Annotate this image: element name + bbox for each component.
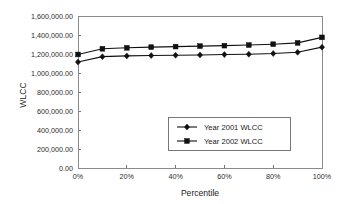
y-tick-label: 600,000.00 bbox=[37, 107, 73, 116]
data-series-group bbox=[75, 35, 324, 65]
legend-label: Year 2001 WLCC bbox=[204, 123, 263, 132]
data-point-marker bbox=[222, 52, 227, 58]
x-tick-label: 80% bbox=[266, 172, 281, 181]
data-point-marker bbox=[246, 43, 251, 48]
legend-label: Year 2002 WLCC bbox=[204, 137, 263, 146]
x-tick-label: 0% bbox=[73, 172, 84, 181]
data-point-marker bbox=[76, 52, 81, 57]
y-tick-label: 400,000.00 bbox=[37, 126, 73, 135]
data-point-marker bbox=[149, 53, 154, 59]
y-tick-label: 1,600,000.00 bbox=[31, 12, 73, 21]
x-axis-title: Percentile bbox=[181, 188, 219, 198]
data-point-marker bbox=[75, 59, 80, 65]
x-tick-label: 60% bbox=[217, 172, 232, 181]
data-point-marker bbox=[100, 54, 105, 60]
data-point-marker bbox=[173, 52, 178, 58]
data-point-marker bbox=[271, 42, 276, 47]
y-tick-label: 200,000.00 bbox=[37, 145, 73, 154]
y-tick-label: 1,200,000.00 bbox=[31, 50, 73, 59]
wlcc-percentile-line-chart: 0.00200,000.00400,000.00600,000.00800,00… bbox=[0, 0, 347, 204]
data-point-marker bbox=[320, 35, 325, 40]
x-tick-label: 20% bbox=[120, 172, 135, 181]
chart-figure: 0.00200,000.00400,000.00600,000.00800,00… bbox=[0, 0, 347, 204]
data-point-marker bbox=[100, 46, 105, 51]
y-tick-label: 0.00 bbox=[59, 164, 73, 173]
data-point-marker bbox=[124, 45, 129, 50]
data-point-marker bbox=[222, 43, 227, 48]
data-point-marker bbox=[185, 139, 190, 144]
data-point-marker bbox=[271, 51, 276, 57]
data-point-marker bbox=[173, 44, 178, 49]
y-tick-label: 800,000.00 bbox=[37, 88, 73, 97]
data-point-marker bbox=[295, 49, 300, 55]
data-point-marker bbox=[124, 53, 129, 59]
x-axis-tick-labels: 0%20%40%60%80%100% bbox=[73, 172, 332, 181]
data-point-marker bbox=[198, 44, 203, 49]
data-point-marker bbox=[149, 45, 154, 50]
data-point-marker bbox=[246, 51, 251, 57]
y-axis-tick-labels: 0.00200,000.00400,000.00600,000.00800,00… bbox=[31, 12, 73, 173]
x-tick-label: 100% bbox=[313, 172, 332, 181]
data-point-marker bbox=[295, 40, 300, 45]
y-tick-label: 1,400,000.00 bbox=[31, 31, 73, 40]
data-point-marker bbox=[319, 44, 324, 50]
data-point-marker bbox=[197, 52, 202, 58]
x-tick-label: 40% bbox=[168, 172, 183, 181]
chart-legend: Year 2001 WLCCYear 2002 WLCC bbox=[168, 117, 290, 150]
y-tick-label: 1,000,000.00 bbox=[31, 69, 73, 78]
y-axis-title: WLCC bbox=[18, 82, 28, 107]
